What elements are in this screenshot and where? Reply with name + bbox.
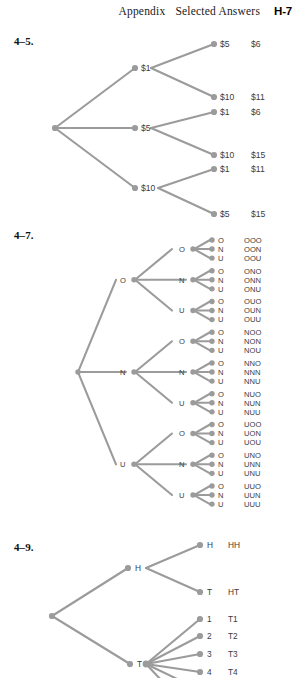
node-label-4-7-2-1: N bbox=[179, 460, 184, 469]
leaf-node-4-7-2-0-0 bbox=[209, 422, 214, 427]
outcome-4-7-1-2-0: NUO bbox=[244, 390, 261, 399]
leaf-node-4-7-0-0-2 bbox=[209, 255, 214, 260]
edges-4-7 bbox=[78, 240, 210, 504]
leaf-label-4-9-1-3: 4 bbox=[207, 667, 212, 677]
leaf-label-4-7-0-0-0: O bbox=[218, 236, 224, 245]
leaf-label-4-5-2-0: $1 bbox=[220, 164, 230, 174]
outcome-4-7-0-0-1: OON bbox=[244, 245, 261, 254]
edges-4-9 bbox=[52, 545, 200, 678]
node-label-4-7-0-0: O bbox=[179, 245, 185, 254]
leaf-label-4-7-2-0-1: N bbox=[218, 429, 223, 438]
leaf-label-4-9-0-0: H bbox=[207, 540, 213, 550]
node-label-4-7-0-2: U bbox=[179, 306, 184, 315]
figure-4-7: OOOONOONUOOUOOONONONNUONUNOOUONOUNUOUUUO… bbox=[0, 228, 301, 528]
node-label-4-7-0: O bbox=[120, 276, 126, 285]
leaf-label-4-7-0-1-1: N bbox=[218, 276, 223, 285]
running-head-title: Selected Answers bbox=[175, 5, 260, 17]
outcome-4-5-2-1: $15 bbox=[251, 209, 266, 219]
leaf-node-4-7-1-2-2 bbox=[209, 409, 214, 414]
leaf-label-4-7-2-0-2: U bbox=[218, 438, 223, 447]
outcome-4-7-2-0-2: UOU bbox=[244, 438, 261, 447]
leaf-node-4-7-0-1-2 bbox=[209, 286, 214, 291]
outcome-4-7-1-1-0: NNO bbox=[244, 359, 261, 368]
running-head-appendix: Appendix bbox=[118, 5, 165, 17]
outcome-4-7-0-1-1: ONN bbox=[244, 276, 261, 285]
outcome-4-7-0-2-2: OUU bbox=[244, 315, 261, 324]
leaf-node-4-7-0-0-1 bbox=[209, 246, 214, 251]
outcome-4-9-1-2: T3 bbox=[228, 649, 238, 659]
leaf-label-4-7-2-0-0: O bbox=[218, 420, 224, 429]
leaf-node-4-7-2-0-1 bbox=[209, 431, 214, 436]
mid-node-4-7-2-2 bbox=[190, 492, 195, 497]
leaf-node-4-7-2-1-2 bbox=[209, 471, 214, 476]
leaf-label-4-7-2-2-0: O bbox=[218, 482, 224, 491]
node-label-4-9-b1: T bbox=[137, 659, 142, 669]
running-head: Appendix Selected Answers H-7 bbox=[0, 3, 301, 19]
outcome-4-7-2-0-1: UON bbox=[244, 429, 261, 438]
leaf-label-4-7-1-0-0: O bbox=[218, 328, 224, 337]
outcome-4-7-1-0-1: NON bbox=[244, 337, 261, 346]
leaf-node-4-7-2-2-1 bbox=[209, 492, 214, 497]
node-label-4-5-b0: $1 bbox=[141, 63, 151, 73]
mid-node-4-7-0-1 bbox=[190, 277, 195, 282]
node-label-4-7-1-0: O bbox=[179, 337, 185, 346]
leaf-label-4-7-2-1-0: O bbox=[218, 451, 224, 460]
leaf-node-4-7-1-2-1 bbox=[209, 400, 214, 405]
leaf-node-4-7-0-2-2 bbox=[209, 317, 214, 322]
node-label-4-7-2-0: O bbox=[179, 429, 185, 438]
leaf-node-4-7-1-0-1 bbox=[209, 339, 214, 344]
outcome-4-7-0-2-1: OUN bbox=[244, 306, 261, 315]
outcome-4-9-0-0: HH bbox=[228, 540, 240, 550]
outcome-4-7-1-0-0: NOO bbox=[244, 328, 261, 337]
leaf-label-4-7-0-1-2: U bbox=[218, 285, 223, 294]
outcome-4-9-1-3: T4 bbox=[228, 667, 238, 677]
leaf-label-4-7-2-1-1: N bbox=[218, 460, 223, 469]
outcome-4-5-1-0: $6 bbox=[251, 107, 261, 117]
outcome-4-7-2-1-2: UNU bbox=[244, 469, 260, 478]
leaf-label-4-7-1-2-2: U bbox=[218, 408, 223, 417]
outcome-4-7-1-1-2: NNU bbox=[244, 377, 260, 386]
answer-key-page: Appendix Selected Answers H-7 4–5. bbox=[0, 0, 301, 678]
leaf-label-4-7-0-0-1: N bbox=[218, 245, 223, 254]
node-label-4-7-1: N bbox=[120, 368, 125, 377]
leaf-node-4-7-1-1-2 bbox=[209, 378, 214, 383]
figure-4-9: H T H HH T HT 1 T1 2 T2 3 T3 4 T4 bbox=[0, 536, 301, 678]
leaf-node-4-7-2-1-1 bbox=[209, 462, 214, 467]
outcome-4-7-0-1-2: ONU bbox=[244, 285, 261, 294]
outcome-4-5-2-0: $11 bbox=[251, 164, 265, 174]
mid-node-4-7-0-2 bbox=[190, 308, 195, 313]
leaf-label-4-5-0-0: $5 bbox=[220, 39, 230, 49]
node-label-4-7-2: U bbox=[120, 460, 125, 469]
labels-4-5: $1 $5 $10 $5 $6 $10 $11 $1 $6 $10 $15 $1… bbox=[141, 39, 266, 219]
outcome-4-7-1-1-1: NNN bbox=[244, 368, 260, 377]
outcome-4-7-2-0-0: UOO bbox=[244, 420, 261, 429]
leaf-label-4-7-0-2-1: N bbox=[218, 306, 223, 315]
leaf-label-4-9-1-1: 2 bbox=[207, 631, 212, 641]
leaf-node-4-7-0-0-0 bbox=[209, 237, 214, 242]
node-label-4-7-1-1: N bbox=[179, 368, 184, 377]
outcome-4-7-0-0-0: OOO bbox=[244, 236, 262, 245]
leaf-label-4-7-1-0-2: U bbox=[218, 346, 223, 355]
mid-node-4-7-1-2 bbox=[190, 400, 195, 405]
leaf-label-4-7-2-1-2: U bbox=[218, 469, 223, 478]
branch-node-4-7-0 bbox=[131, 277, 136, 282]
leaf-node-4-7-1-2-0 bbox=[209, 391, 214, 396]
outcome-4-5-0-0: $6 bbox=[251, 39, 261, 49]
leaf-label-4-7-0-2-0: O bbox=[218, 297, 224, 306]
branch-node-4-7-1 bbox=[131, 369, 136, 374]
branch-node-4-7-2 bbox=[131, 462, 136, 467]
outcome-4-7-2-2-0: UUO bbox=[244, 482, 261, 491]
outcome-4-7-2-2-2: UUU bbox=[244, 500, 260, 509]
outcome-4-7-1-2-2: NUU bbox=[244, 408, 260, 417]
leaf-label-4-7-0-2-2: U bbox=[218, 315, 223, 324]
leaf-node-4-7-0-2-0 bbox=[209, 299, 214, 304]
outcome-4-5-0-1: $11 bbox=[251, 92, 265, 102]
outcome-4-7-1-0-2: NOU bbox=[244, 346, 261, 355]
node-label-4-7-2-2: U bbox=[179, 491, 184, 500]
outcome-4-9-1-1: T2 bbox=[228, 631, 238, 641]
node-label-4-7-0-1: N bbox=[179, 276, 184, 285]
leaf-label-4-7-1-2-1: N bbox=[218, 399, 223, 408]
mid-node-4-7-1-1 bbox=[190, 369, 195, 374]
leaf-label-4-7-1-1-1: N bbox=[218, 368, 223, 377]
root-node-4-7 bbox=[75, 369, 80, 374]
